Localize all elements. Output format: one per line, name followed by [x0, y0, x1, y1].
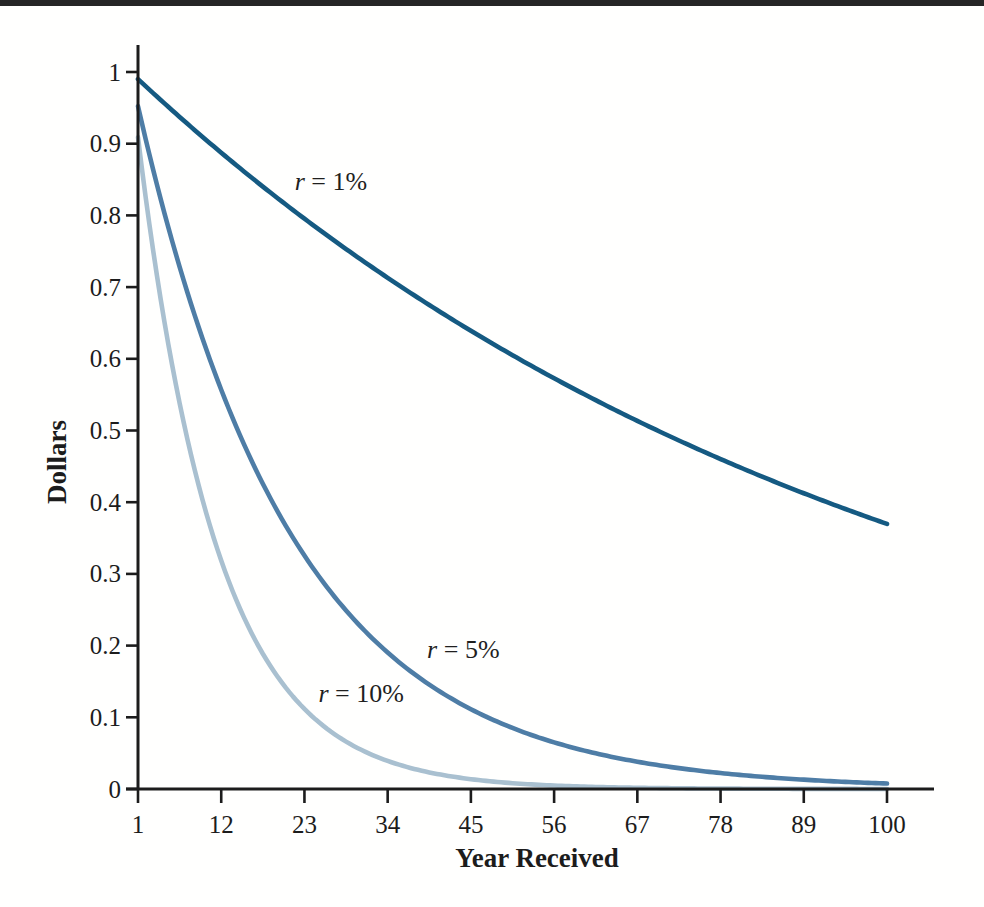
- curve-label-r-10-: r = 10%: [318, 679, 403, 708]
- y-tick-label: 0.9: [90, 130, 121, 157]
- y-tick-label: 0.7: [90, 274, 121, 301]
- x-axis-title: Year Received: [455, 843, 619, 874]
- x-tick-label: 23: [292, 811, 317, 838]
- x-tick-label: 89: [791, 811, 816, 838]
- y-tick-label: 0.1: [90, 704, 121, 731]
- x-tick-label: 12: [209, 811, 234, 838]
- x-tick-label: 67: [625, 811, 650, 838]
- y-tick-label: 0.3: [90, 560, 121, 587]
- x-tick-label: 56: [542, 811, 567, 838]
- curve-r-5-: [138, 106, 887, 783]
- y-tick-label: 0.4: [90, 489, 122, 516]
- y-tick-label: 0: [109, 776, 122, 803]
- y-tick-label: 1: [109, 59, 122, 86]
- y-axis-title: Dollars: [42, 420, 73, 504]
- y-tick-label: 0.5: [90, 417, 121, 444]
- x-tick-label: 100: [868, 811, 906, 838]
- curve-label-r-5-: r = 5%: [427, 635, 499, 664]
- present-value-chart: 00.10.20.30.40.50.60.70.80.9111223344556…: [0, 0, 984, 907]
- x-tick-label: 1: [132, 811, 145, 838]
- curve-label-r-1-: r = 1%: [295, 167, 367, 196]
- x-tick-label: 45: [458, 811, 483, 838]
- y-tick-label: 0.6: [90, 345, 121, 372]
- y-tick-label: 0.2: [90, 632, 121, 659]
- chart-canvas: 00.10.20.30.40.50.60.70.80.9111223344556…: [0, 0, 984, 907]
- x-tick-label: 34: [375, 811, 401, 838]
- x-tick-label: 78: [708, 811, 733, 838]
- y-tick-label: 0.8: [90, 202, 121, 229]
- page: 00.10.20.30.40.50.60.70.80.9111223344556…: [0, 0, 984, 907]
